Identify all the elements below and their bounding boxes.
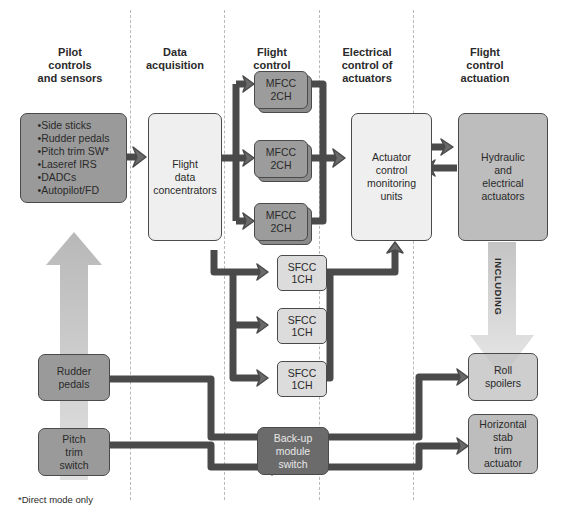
- actuator-control-monitoring-box: Actuator control monitoring units: [351, 113, 432, 241]
- box-line: Pitch: [59, 433, 88, 446]
- list-item: Laseref IRS: [38, 158, 110, 171]
- box-line: pedals: [57, 378, 91, 391]
- box-line: trim: [479, 444, 526, 457]
- box-line: spoilers: [485, 377, 521, 390]
- list-item: DADCs: [38, 171, 110, 184]
- box-line: 2CH: [266, 159, 296, 172]
- sfcc-box-1: SFCC1CH: [277, 255, 327, 291]
- pilot-inputs-box: Side sticks Rudder pedals Pitch trim SW*…: [20, 113, 127, 203]
- sfcc-box-2: SFCC1CH: [277, 308, 327, 344]
- roll-spoilers-box: Roll spoilers: [468, 353, 538, 401]
- box-line: Flight: [153, 158, 217, 171]
- box-line: Rudder: [57, 365, 91, 378]
- footnote: *Direct mode only: [18, 494, 93, 505]
- box-line: switch: [274, 458, 313, 471]
- hydraulic-electrical-actuators-box: Hydraulic and electrical actuators: [458, 113, 548, 241]
- box-line: data: [153, 171, 217, 184]
- box-line: monitoring: [367, 177, 416, 190]
- horizontal-stab-trim-actuator-box: Horizontal stab trim actuator: [468, 414, 538, 474]
- flight-data-concentrators-box: Flight data concentrators: [148, 113, 222, 241]
- box-line: control: [367, 164, 416, 177]
- box-line: electrical: [481, 177, 525, 190]
- box-line: SFCC: [288, 314, 317, 326]
- box-line: module: [274, 445, 313, 458]
- box-line: Horizontal: [479, 418, 526, 431]
- box-line: SFCC: [288, 261, 317, 273]
- pilot-inputs-list: Side sticks Rudder pedals Pitch trim SW*…: [38, 119, 110, 197]
- list-item: Autopilot/FD: [38, 184, 110, 197]
- box-line: actuators: [481, 190, 525, 203]
- box-line: trim: [59, 446, 88, 459]
- box-line: 1CH: [288, 326, 317, 338]
- box-line: 1CH: [288, 273, 317, 285]
- mfcc-box: MFCC2CH: [254, 203, 308, 241]
- including-label: INCLUDING: [493, 258, 504, 315]
- sfcc-box-3: SFCC1CH: [277, 361, 327, 397]
- pitch-trim-switch-box: Pitch trim switch: [38, 428, 110, 476]
- box-line: MFCC: [266, 209, 296, 222]
- box-line: 1CH: [288, 379, 317, 391]
- box-line: concentrators: [153, 184, 217, 197]
- mfcc-box: MFCC2CH: [254, 140, 308, 178]
- mfcc-box: MFCC2CH: [254, 71, 308, 109]
- box-line: Actuator: [367, 151, 416, 164]
- box-line: and: [481, 164, 525, 177]
- box-line: SFCC: [288, 367, 317, 379]
- box-line: MFCC: [266, 77, 296, 90]
- box-line: MFCC: [266, 146, 296, 159]
- box-line: stab: [479, 431, 526, 444]
- list-item: Pitch trim SW*: [38, 145, 110, 158]
- box-line: units: [367, 190, 416, 203]
- box-line: switch: [59, 459, 88, 472]
- box-line: Roll: [485, 364, 521, 377]
- rudder-pedals-box: Rudder pedals: [38, 354, 110, 401]
- box-line: Back-up: [274, 432, 313, 445]
- box-line: Hydraulic: [481, 151, 525, 164]
- list-item: Rudder pedals: [38, 132, 110, 145]
- list-item: Side sticks: [38, 119, 110, 132]
- backup-module-switch-box: Back-up module switch: [257, 427, 329, 475]
- box-line: 2CH: [266, 90, 296, 103]
- box-line: 2CH: [266, 222, 296, 235]
- box-line: actuator: [479, 457, 526, 470]
